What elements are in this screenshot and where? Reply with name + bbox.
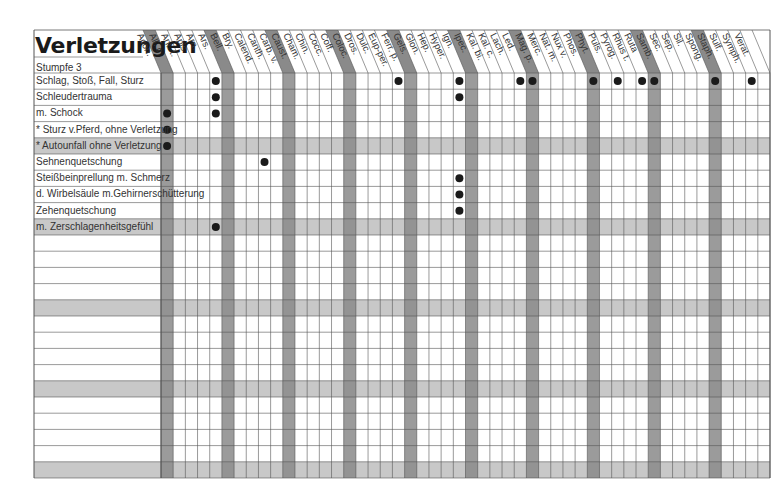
remedy-dot — [455, 174, 463, 182]
remedy-dot — [528, 77, 536, 85]
column-band — [344, 73, 356, 478]
row-label: m. Schock — [36, 105, 83, 121]
row-label: d. Wirbelsäule m.Gehirnerschütterung — [36, 186, 204, 202]
column-band — [587, 73, 599, 478]
row-label: Steißbeinprellung m. Schmerz — [36, 170, 170, 186]
remedy-dot — [455, 207, 463, 215]
remedy-dot — [516, 77, 524, 85]
column-band — [222, 73, 234, 478]
column-band — [405, 73, 417, 478]
column-band — [709, 73, 721, 478]
row-label: Schlag, Stoß, Fall, Sturz — [36, 73, 144, 89]
remedy-dot — [711, 77, 719, 85]
column-band — [526, 73, 538, 478]
column-band — [283, 73, 295, 478]
remedy-dot — [638, 77, 646, 85]
remedy-dot — [455, 77, 463, 85]
remedy-dot — [212, 93, 220, 101]
row-label: Zehenquetschung — [36, 203, 116, 219]
remedy-dot — [589, 77, 597, 85]
remedy-dot — [395, 77, 403, 85]
repertory-sheet: Verletzungen Stumpfe 3 Schlag, Stoß, Fal… — [0, 0, 772, 502]
remedy-dot — [163, 142, 171, 150]
row-label: * Sturz v.Pferd, ohne Verletzung — [36, 122, 157, 138]
remedy-dot — [455, 93, 463, 101]
remedy-dot — [455, 191, 463, 199]
remedy-dot — [163, 110, 171, 118]
remedy-dot — [261, 158, 269, 166]
row-label: Schleudertrauma — [36, 89, 112, 105]
row-label: Sehnenquetschung — [36, 154, 122, 170]
remedy-dot — [212, 223, 220, 231]
remedy-dot — [650, 77, 658, 85]
remedy-dot — [614, 77, 622, 85]
remedy-dot — [212, 77, 220, 85]
remedy-dot — [212, 110, 220, 118]
row-label: * Autounfall ohne Verletzung — [36, 138, 157, 154]
column-band — [648, 73, 660, 478]
remedy-dot — [748, 77, 756, 85]
row-label: m. Zerschlagenheitsgefühl — [36, 219, 153, 235]
column-band — [466, 73, 478, 478]
